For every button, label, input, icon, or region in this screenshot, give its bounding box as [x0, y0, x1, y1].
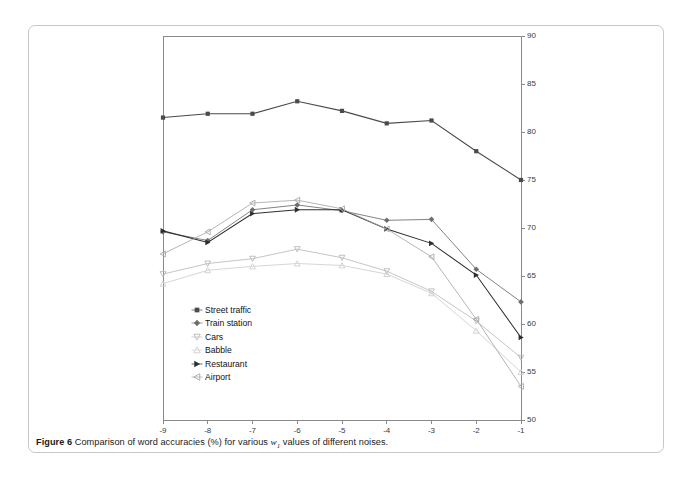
figure-page: -9-8-7-6-5-4-3-2-1505560657075808590 Str… [0, 0, 692, 477]
x-axis-tick-label: -4 [375, 426, 399, 435]
legend-item: Babble [190, 344, 252, 358]
series-marker [206, 112, 210, 116]
y-axis-tick-label: 55 [527, 367, 549, 376]
legend-label: Restaurant [203, 359, 247, 369]
caption-label: Figure 6 [36, 437, 72, 447]
y-axis-tick-label: 80 [527, 127, 549, 136]
legend-item: Train station [190, 317, 252, 331]
y-axis-tick-label: 60 [527, 319, 549, 328]
series-marker [519, 178, 523, 182]
legend-item: Street traffic [190, 303, 252, 317]
series-line [163, 205, 521, 302]
x-axis-tick-label: -1 [509, 426, 533, 435]
chart-series [161, 99, 523, 182]
x-axis-tick-label: -2 [464, 426, 488, 435]
legend-label: Cars [203, 332, 223, 342]
legend-item: Airport [190, 371, 252, 385]
legend-item: Cars [190, 330, 252, 344]
x-axis-tick-label: -6 [285, 426, 309, 435]
y-axis-tick-label: 90 [527, 31, 549, 40]
series-marker [295, 99, 299, 103]
y-axis-tick-label: 70 [527, 223, 549, 232]
x-axis-tick-label: -5 [330, 426, 354, 435]
series-marker [250, 112, 254, 116]
x-axis-tick-label: -8 [196, 426, 220, 435]
series-marker [385, 121, 389, 125]
series-marker [161, 116, 165, 120]
y-axis-tick-label: 85 [527, 79, 549, 88]
legend-marker-triangle-left-icon [190, 371, 203, 383]
legend-marker-triangle-right-icon [190, 358, 203, 370]
legend-label: Train station [203, 318, 252, 328]
legend-marker-diamond-icon [190, 317, 203, 329]
legend-marker-triangle-down-icon [190, 331, 203, 343]
series-marker [384, 218, 390, 224]
caption-text-after: values of different noises. [280, 437, 388, 447]
chart-legend: Street trafficTrain stationCarsBabbleRes… [190, 303, 252, 384]
legend-item: Restaurant [190, 357, 252, 371]
series-line [163, 101, 521, 180]
legend-marker-triangle-up-icon [190, 344, 203, 356]
series-marker [295, 207, 300, 213]
legend-label: Babble [203, 345, 232, 355]
chart-plot-area [0, 0, 692, 477]
series-marker [429, 118, 433, 122]
legend-marker-square-icon [190, 304, 203, 316]
x-axis-tick-label: -3 [420, 426, 444, 435]
series-marker [340, 109, 344, 113]
y-axis-tick-label: 65 [527, 271, 549, 280]
caption-text-before: Comparison of word accuracies (%) for va… [75, 437, 271, 447]
legend-label: Street traffic [203, 305, 251, 315]
figure-caption: Figure 6 Comparison of word accuracies (… [36, 437, 636, 449]
x-axis-tick-label: -7 [241, 426, 265, 435]
x-axis-tick-label: -9 [151, 426, 175, 435]
legend-label: Airport [203, 372, 230, 382]
series-marker [518, 299, 524, 305]
y-axis-tick-label: 75 [527, 175, 549, 184]
chart-series [160, 202, 524, 305]
y-axis-tick-label: 50 [527, 415, 549, 424]
series-marker [474, 149, 478, 153]
